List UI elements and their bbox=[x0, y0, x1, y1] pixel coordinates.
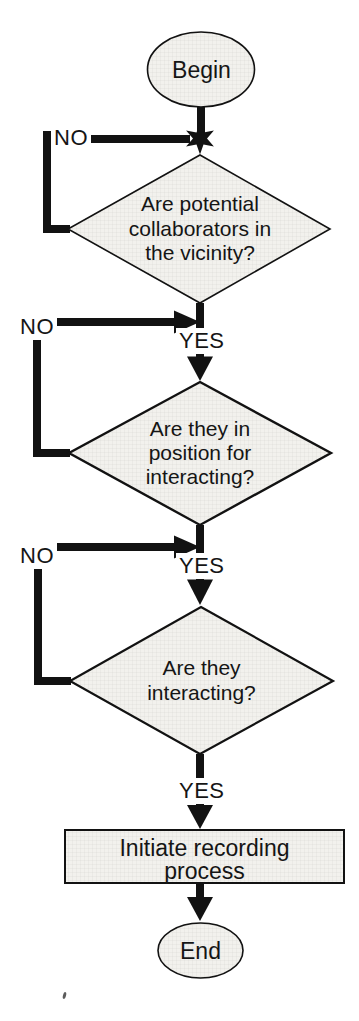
decision-3-yes-label: YES bbox=[176, 778, 228, 804]
decision-2-yes-label: YES bbox=[176, 553, 228, 579]
decision-2-label-line-3: interacting? bbox=[69, 465, 331, 489]
decision-3-entry-arrowhead bbox=[187, 580, 213, 606]
decision-1-label-line-2: collaborators in bbox=[68, 217, 332, 242]
decision-1-label: Are potential collaborators in the vicin… bbox=[68, 192, 332, 266]
process-label-line-1: Initiate recording bbox=[65, 837, 344, 860]
decision-3-label: Are they interacting? bbox=[70, 655, 333, 705]
flowchart-canvas: Begin NO Are potential collaborators in … bbox=[0, 0, 359, 1021]
begin-label: Begin bbox=[148, 57, 255, 83]
decision-2-label-line-1: Are they in bbox=[69, 417, 331, 441]
end-label: End bbox=[158, 938, 243, 964]
process-label: Initiate recording process bbox=[65, 837, 344, 883]
end-entry-arrowhead bbox=[187, 897, 213, 921]
decision-2-label: Are they in position for interacting? bbox=[69, 417, 331, 489]
merge-junction-star-arrowhead bbox=[186, 123, 214, 155]
decision-3-no-label: NO bbox=[17, 543, 57, 569]
decision-1-yes-label: YES bbox=[176, 328, 228, 354]
decision-1-label-line-1: Are potential bbox=[68, 192, 332, 217]
decision-2-label-line-2: position for bbox=[69, 441, 331, 465]
decision-1-label-line-3: the vicinity? bbox=[68, 241, 332, 266]
process-entry-arrowhead bbox=[187, 805, 213, 829]
decision-1-no-label: NO bbox=[51, 125, 91, 151]
process-label-line-2: process bbox=[65, 860, 344, 883]
decision-3-label-line-2: interacting? bbox=[70, 680, 333, 705]
decision-2-entry-arrowhead bbox=[187, 357, 213, 382]
decision-2-no-label: NO bbox=[17, 314, 57, 340]
decision-3-label-line-1: Are they bbox=[70, 655, 333, 680]
